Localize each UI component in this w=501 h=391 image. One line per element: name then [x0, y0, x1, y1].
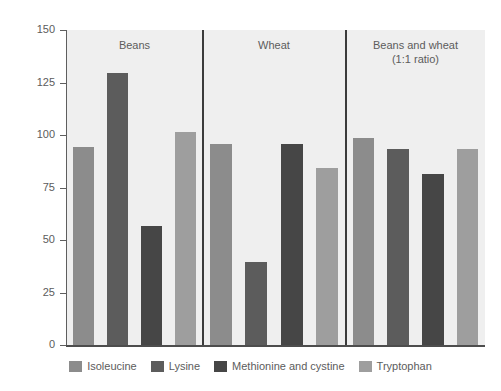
- legend-label: Isoleucine: [87, 360, 137, 372]
- panel-3: Beans and wheat(1:1 ratio): [346, 30, 485, 346]
- legend-item-4: Tryptophan: [359, 360, 432, 372]
- panel-2: Wheat: [203, 30, 345, 346]
- bar-group-3: [346, 30, 485, 346]
- bar: [175, 132, 196, 346]
- bar: [316, 168, 338, 347]
- legend-item-3: Methionine and cystine: [214, 360, 345, 372]
- y-tick-label-150: 150: [0, 24, 55, 35]
- bar: [457, 149, 479, 346]
- y-tick-label-100: 100: [0, 129, 55, 140]
- bar: [353, 138, 375, 346]
- y-tick-label-25: 25: [0, 287, 55, 298]
- legend-swatch-icon: [214, 361, 227, 372]
- legend-swatch-icon: [69, 361, 82, 372]
- panel-divider-1: [202, 30, 204, 346]
- legend-swatch-icon: [151, 361, 164, 372]
- bar: [210, 144, 232, 346]
- bar: [141, 226, 162, 346]
- panel-1: Beans: [67, 30, 202, 346]
- bar-group-1: [67, 30, 202, 346]
- legend-item-1: Isoleucine: [69, 360, 137, 372]
- chart-legend: IsoleucineLysineMethionine and cystineTr…: [0, 360, 501, 372]
- bar: [281, 144, 303, 346]
- bar: [73, 147, 94, 347]
- x-axis-line: [66, 345, 485, 347]
- bar: [387, 149, 409, 346]
- legend-label: Lysine: [169, 360, 200, 372]
- legend-label: Tryptophan: [377, 360, 432, 372]
- legend-item-2: Lysine: [151, 360, 200, 372]
- bar: [107, 73, 128, 346]
- bar-group-2: [203, 30, 345, 346]
- y-tick-label-0: 0: [0, 339, 55, 350]
- y-tick-label-75: 75: [0, 182, 55, 193]
- panel-divider-2: [345, 30, 347, 346]
- y-tick-label-50: 50: [0, 234, 55, 245]
- bar: [245, 262, 267, 346]
- bar: [422, 174, 444, 346]
- legend-label: Methionine and cystine: [232, 360, 345, 372]
- y-tick-label-125: 125: [0, 77, 55, 88]
- chart-figure: Amount of essential amino acid (%) 15012…: [0, 0, 501, 391]
- legend-swatch-icon: [359, 361, 372, 372]
